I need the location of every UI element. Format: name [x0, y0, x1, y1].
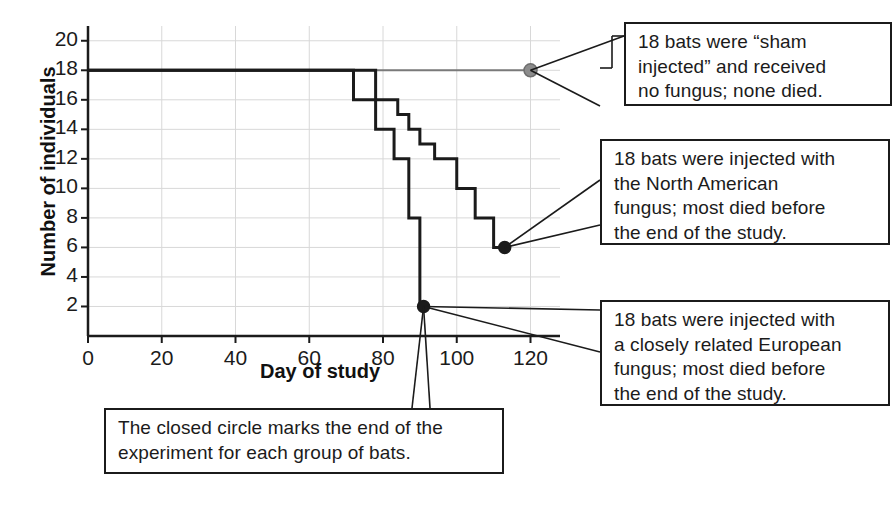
leader-line	[424, 306, 600, 310]
annotation-closed-circle-legend: The closed circle marks the end of the e…	[104, 408, 504, 474]
annotation-european-fungus: 18 bats were injected with a closely rel…	[600, 300, 890, 406]
annotation-sham-injected: 18 bats were “sham injected” and receive…	[624, 22, 892, 106]
leader-line	[531, 70, 601, 106]
gridlines	[88, 26, 560, 336]
x-axis-title: Day of study	[140, 360, 500, 383]
y-axis-title: Number of individuals	[37, 32, 60, 312]
x-tick-label: 0	[56, 346, 120, 370]
axis-lines	[88, 26, 560, 336]
x-tick-label: 120	[499, 346, 563, 370]
chart-figure: 2018161412108642 020406080100120 Day of …	[0, 0, 896, 512]
annotation-north-american-fungus: 18 bats were injected with the North Ame…	[600, 139, 890, 245]
leader-line	[505, 180, 600, 247]
leader-line	[505, 225, 600, 247]
